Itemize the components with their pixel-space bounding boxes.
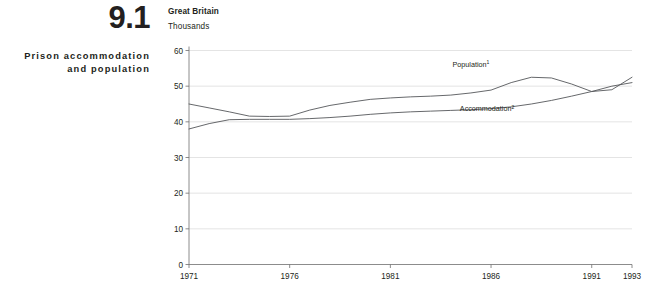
series-label-population: Population1 bbox=[453, 59, 490, 69]
x-tick-label-1986: 1986 bbox=[482, 272, 501, 281]
gridlines-group bbox=[189, 51, 632, 229]
line-chart-svg: 0102030405060 197119761981198619911993 P… bbox=[0, 0, 648, 288]
y-tick-label-50: 50 bbox=[174, 82, 184, 91]
y-tick-label-40: 40 bbox=[174, 118, 184, 127]
series-label-accommodation: Accommodation2 bbox=[460, 104, 515, 114]
x-tick-label-1981: 1981 bbox=[381, 272, 400, 281]
series-lines-group bbox=[189, 77, 632, 129]
x-tick-label-1991: 1991 bbox=[583, 272, 602, 281]
x-tick-label-1971: 1971 bbox=[180, 272, 199, 281]
y-tick-label-10: 10 bbox=[174, 225, 184, 234]
chart-plot-area: 0102030405060 197119761981198619911993 P… bbox=[0, 0, 648, 288]
chart-page: 9.1 Prison accommodation and population … bbox=[0, 0, 648, 288]
y-axis-labels-group: 0102030405060 bbox=[174, 47, 184, 270]
x-axis-ticks-group bbox=[189, 265, 632, 269]
series-line-population bbox=[189, 77, 632, 116]
y-tick-label-0: 0 bbox=[178, 261, 183, 270]
x-tick-label-1993: 1993 bbox=[623, 272, 642, 281]
y-tick-label-20: 20 bbox=[174, 189, 184, 198]
y-tick-label-30: 30 bbox=[174, 154, 184, 163]
x-tick-label-1976: 1976 bbox=[281, 272, 300, 281]
y-axis-ticks-group bbox=[186, 51, 190, 265]
y-tick-label-60: 60 bbox=[174, 47, 184, 56]
x-axis-labels-group: 197119761981198619911993 bbox=[180, 272, 642, 281]
